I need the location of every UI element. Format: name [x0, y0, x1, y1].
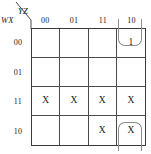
column-header-0: 00 [31, 14, 60, 27]
kmap-cell-r1c0[interactable] [32, 58, 60, 87]
kmap-cell-r1c1[interactable] [60, 58, 88, 87]
row-variables-label: WX [1, 16, 14, 25]
row-header-3: 10 [6, 117, 30, 147]
kmap-cell-r2c1[interactable]: X [60, 87, 88, 116]
kmap-cell-r1c2[interactable] [89, 58, 117, 87]
row-header-0: 00 [6, 28, 30, 58]
kmap-cell-r3c0[interactable] [32, 116, 60, 145]
kmap-cell-r0c3[interactable]: 1 [117, 29, 145, 58]
kmap-cell-r1c3[interactable] [117, 58, 145, 87]
column-header-row: 00 01 11 10 [31, 14, 146, 27]
column-header-1: 01 [60, 14, 89, 27]
kmap-cell-r3c1[interactable] [60, 116, 88, 145]
row-header-column: 00 01 11 10 [6, 28, 30, 146]
column-header-3: 10 [117, 14, 146, 27]
karnaugh-map: YZ WX 00 01 11 10 00 01 11 10 1 X X X X … [0, 0, 151, 154]
kmap-cell-r0c1[interactable] [60, 29, 88, 58]
kmap-cell-r3c2[interactable]: X [89, 116, 117, 145]
kmap-cell-r2c3[interactable]: X [117, 87, 145, 116]
kmap-corner-header: YZ WX [0, 0, 34, 30]
column-variables-label: YZ [18, 7, 28, 16]
kmap-cell-r2c2[interactable]: X [89, 87, 117, 116]
kmap-grid: 1 X X X X X X [31, 28, 146, 146]
row-header-1: 01 [6, 58, 30, 88]
kmap-cell-r2c0[interactable]: X [32, 87, 60, 116]
kmap-cell-r0c0[interactable] [32, 29, 60, 58]
row-header-2: 11 [6, 87, 30, 117]
kmap-cell-r0c2[interactable] [89, 29, 117, 58]
column-header-2: 11 [89, 14, 118, 27]
kmap-cell-r3c3[interactable]: X [117, 116, 145, 145]
